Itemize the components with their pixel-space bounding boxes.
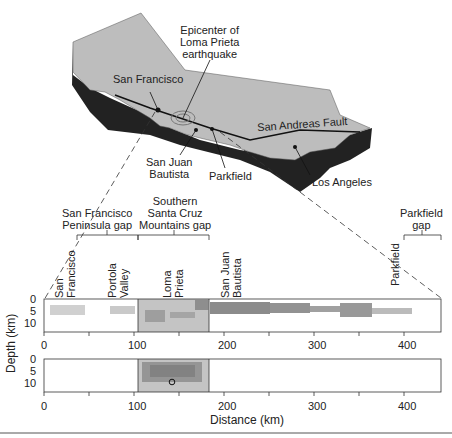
section-label-portola-valley: Portola (107, 263, 118, 298)
sf-peninsula-gap-label: San Francisco Peninsula gap (62, 207, 132, 231)
sf-peninsula-gap-bracket (77, 235, 138, 240)
section-label-loma-prieta: Loma (162, 270, 173, 298)
santa-cruz-gap-bracket (138, 235, 209, 240)
parkfield-gap-bracket (404, 235, 441, 240)
san-francisco-map-label: San Francisco (113, 73, 183, 85)
parkfield-map-label: Parkfield (209, 170, 252, 182)
y-axis-label: Depth (km) (6, 314, 17, 373)
section-label-san-juan-bautista: San Juan (220, 252, 231, 298)
section-label-parkfield: Parkfield (390, 243, 401, 286)
san-juan-map-label: San Juan Bautista (146, 156, 192, 180)
bottom-plot-frame (44, 359, 441, 392)
santa-cruz-gap-label: Southern Santa Cruz Mountains gap (139, 195, 211, 231)
los-angeles-map-label: Los Angeles (312, 176, 372, 188)
epicenter-label: Epicenter of Loma Prieta earthquake (180, 24, 239, 60)
top-plot-hypocenters (50, 300, 412, 322)
section-label-san-francisco: San (54, 278, 65, 298)
x-axis-label: Distance (km) (210, 414, 284, 426)
parkfield-gap-label: Parkfield gap (400, 207, 443, 231)
